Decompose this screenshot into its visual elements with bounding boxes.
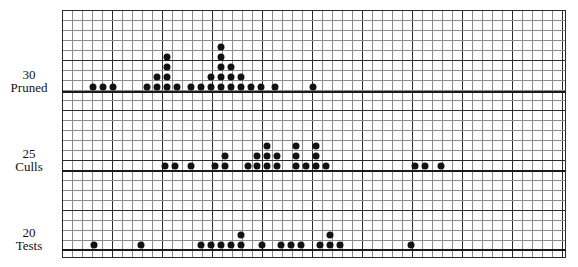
data-dot [313, 153, 320, 160]
data-dot [254, 163, 261, 170]
grid-line-horizontal [62, 210, 566, 211]
data-dot [222, 163, 229, 170]
grid-line-horizontal [62, 40, 566, 41]
grid-line-horizontal [62, 110, 566, 111]
data-dot [208, 74, 215, 81]
data-dot [218, 44, 225, 51]
data-dot [238, 84, 245, 91]
data-dot [254, 153, 261, 160]
data-dot [110, 84, 117, 91]
axis-label-culls-name: Culls [0, 160, 58, 173]
data-dot [238, 242, 245, 249]
data-dot [144, 84, 151, 91]
grid-line-horizontal [62, 50, 566, 51]
plot-area [62, 10, 566, 258]
baseline-pruned [62, 91, 566, 93]
data-dot [310, 84, 317, 91]
grid-line-horizontal [62, 160, 566, 161]
data-dot [259, 242, 266, 249]
data-dot [228, 242, 235, 249]
data-dot [293, 163, 300, 170]
baseline-tests [62, 249, 566, 251]
axis-label-culls-value: 25 [0, 147, 58, 160]
grid-line-horizontal [62, 180, 566, 181]
data-dot [198, 242, 205, 249]
axis-label-pruned: 30 Pruned [0, 68, 58, 95]
data-dot [264, 153, 271, 160]
grid-line-horizontal [62, 120, 566, 121]
data-dot [208, 84, 215, 91]
data-dot [293, 153, 300, 160]
data-dot [188, 84, 195, 91]
graph-paper-grid [62, 10, 566, 258]
data-dot [218, 84, 225, 91]
data-dot [100, 84, 107, 91]
data-dot [245, 163, 252, 170]
data-dot [91, 242, 98, 249]
data-dot [90, 84, 97, 91]
data-dot [408, 242, 415, 249]
data-dot [337, 242, 344, 249]
data-dot [278, 242, 285, 249]
data-dot [198, 84, 205, 91]
data-dot [313, 163, 320, 170]
grid-line-horizontal [62, 150, 566, 151]
data-dot [323, 163, 330, 170]
data-dot [208, 242, 215, 249]
data-dot [218, 64, 225, 71]
data-dot [264, 163, 271, 170]
axis-label-tests-value: 20 [0, 226, 58, 239]
data-dot [174, 84, 181, 91]
data-dot [228, 74, 235, 81]
data-dot [327, 232, 334, 239]
axis-label-pruned-name: Pruned [0, 81, 58, 94]
data-dot [218, 54, 225, 61]
data-dot [154, 74, 161, 81]
data-dot [218, 74, 225, 81]
grid-line-horizontal [62, 230, 566, 231]
baseline-culls [62, 170, 566, 172]
data-dot [228, 64, 235, 71]
grid-line-horizontal [62, 240, 566, 241]
data-dot [172, 163, 179, 170]
grid-line-horizontal [62, 60, 566, 61]
grid-line-horizontal [62, 30, 566, 31]
data-dot [222, 153, 229, 160]
data-dot [438, 163, 445, 170]
grid-line-horizontal [62, 100, 566, 101]
grid-line-horizontal [62, 20, 566, 21]
grid-line-horizontal [62, 80, 566, 81]
data-dot [298, 242, 305, 249]
data-dot [327, 242, 334, 249]
grid-line-horizontal [62, 140, 566, 141]
data-dot [272, 84, 279, 91]
axis-label-tests: 20 Tests [0, 226, 58, 253]
data-dot [138, 242, 145, 249]
data-dot [228, 84, 235, 91]
data-dot [154, 84, 161, 91]
grid-line-horizontal [62, 200, 566, 201]
data-dot [303, 163, 310, 170]
data-dot [238, 232, 245, 239]
data-dot [412, 163, 419, 170]
data-dot [164, 84, 171, 91]
axis-label-culls: 25 Culls [0, 147, 58, 174]
grid-line-horizontal [62, 190, 566, 191]
data-dot [293, 143, 300, 150]
data-dot [238, 74, 245, 81]
grid-line-horizontal [62, 10, 566, 11]
data-dot [264, 143, 271, 150]
data-dot [274, 153, 281, 160]
grid-line-horizontal [62, 220, 566, 221]
data-dot [162, 163, 169, 170]
data-dot [164, 64, 171, 71]
axis-label-pruned-value: 30 [0, 68, 58, 81]
figure-root: 30 Pruned 25 Culls 20 Tests [0, 0, 578, 267]
data-dot [258, 84, 265, 91]
axis-label-tests-name: Tests [0, 239, 58, 252]
data-dot [164, 54, 171, 61]
data-dot [422, 163, 429, 170]
data-dot [313, 143, 320, 150]
data-dot [218, 242, 225, 249]
data-dot [288, 242, 295, 249]
